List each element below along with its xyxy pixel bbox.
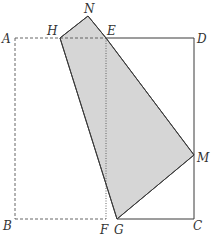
label-h: H — [46, 24, 58, 38]
label-a: A — [1, 32, 11, 46]
label-n: N — [83, 2, 95, 16]
label-f: F — [99, 223, 109, 237]
label-b: B — [2, 219, 12, 233]
label-m: M — [196, 151, 210, 165]
label-c: C — [193, 219, 202, 233]
label-d: D — [196, 32, 207, 46]
label-e: E — [106, 24, 116, 38]
shaded-polygon-hnemg — [60, 16, 194, 219]
geometry-diagram: A H N E D M B F G C — [0, 0, 214, 242]
label-g: G — [114, 223, 124, 237]
